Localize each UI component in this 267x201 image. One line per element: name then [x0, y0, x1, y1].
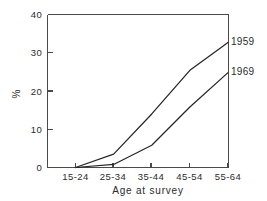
y-tick-label-10: 10 — [31, 124, 42, 135]
y-tick-label-0: 0 — [36, 162, 42, 173]
x-tick-label-25-34: 25-34 — [100, 171, 126, 182]
x-tick-label-15-24: 15-24 — [62, 171, 88, 182]
x-axis-title: Age at survey — [112, 185, 184, 196]
chart-container: 0 10 20 30 40 % 15-24 25-34 35-44 45-54 … — [0, 0, 267, 201]
x-tick-label-35-44: 35-44 — [138, 171, 164, 182]
y-tick-label-40: 40 — [31, 9, 42, 20]
series-label-1969: 1969 — [231, 66, 255, 77]
y-tick-label-30: 30 — [31, 47, 42, 58]
y-tick-marks — [48, 15, 53, 168]
axis-frame — [48, 15, 229, 168]
x-tick-label-45-54: 45-54 — [176, 171, 202, 182]
series-line-1969 — [76, 73, 229, 168]
series-label-1959: 1959 — [231, 36, 255, 47]
y-tick-label-20: 20 — [31, 86, 42, 97]
x-tick-label-55-64: 55-64 — [215, 171, 241, 182]
series-line-1959 — [76, 42, 229, 167]
x-tick-marks — [76, 163, 229, 168]
y-axis-label: % — [11, 89, 22, 98]
line-chart-svg: 0 10 20 30 40 % 15-24 25-34 35-44 45-54 … — [0, 0, 267, 201]
